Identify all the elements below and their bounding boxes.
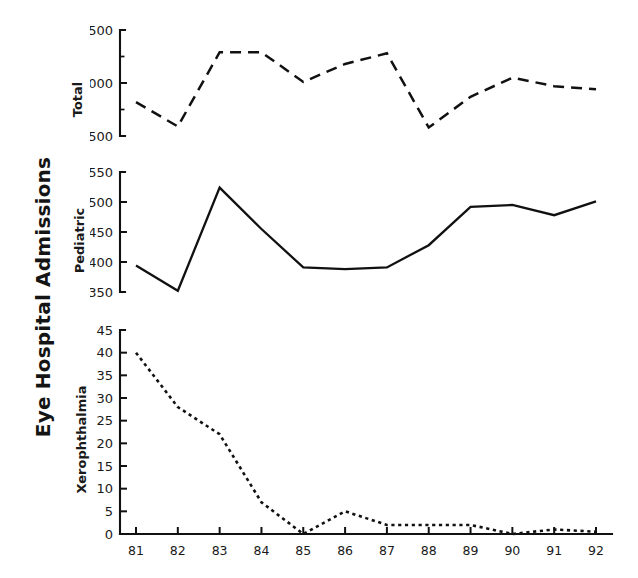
y-tick-label: 20 (96, 436, 113, 451)
y-tick-label: 15 (96, 459, 113, 474)
x-tick-label: 85 (295, 543, 311, 558)
series-line-total (136, 52, 596, 127)
series-line-xerophthalmia (136, 353, 596, 534)
y-axis-title: Eye Hospital Admissions (31, 132, 55, 462)
panel-label-xerophthalmia: Xerophthalmia (74, 357, 89, 522)
x-tick-label: 92 (588, 543, 604, 558)
y-tick-label: 2500 (90, 129, 113, 144)
y-tick-label: 500 (90, 195, 113, 210)
y-tick-label: 550 (90, 165, 113, 180)
y-tick-label: 40 (96, 345, 113, 360)
y-tick-label: 3500 (90, 23, 113, 38)
x-tick-label: 82 (170, 543, 186, 558)
x-tick-label: 86 (337, 543, 353, 558)
x-tick-label: 81 (128, 543, 144, 558)
x-tick-label: 84 (254, 543, 270, 558)
x-tick-label: 88 (421, 543, 437, 558)
y-tick-label: 10 (96, 481, 113, 496)
y-tick-label: 35 (96, 368, 113, 383)
y-tick-label: 30 (96, 391, 113, 406)
y-tick-label: 350 (90, 285, 113, 300)
x-tick-label: 91 (546, 543, 562, 558)
y-tick-label: 25 (96, 413, 113, 428)
chart-figure: Eye Hospital Admissions Total Pediatric … (0, 0, 638, 578)
y-tick-label: 45 (96, 323, 113, 338)
y-tick-label: 5 (105, 504, 113, 519)
y-tick-label: 400 (90, 255, 113, 270)
y-tick-label: 3000 (90, 76, 113, 91)
panel-xerophthalmia: 0510152025303540458182838485868788899091… (90, 322, 638, 574)
panel-pediatric: 350400450500550 (90, 160, 638, 305)
panel-total: 250030003500 (90, 18, 638, 148)
x-tick-label: 87 (379, 543, 395, 558)
y-tick-label: 450 (90, 225, 113, 240)
series-line-pediatric (136, 188, 596, 291)
x-tick-label: 89 (463, 543, 479, 558)
panel-label-pediatric: Pediatric (72, 176, 87, 306)
x-tick-label: 90 (504, 543, 520, 558)
x-tick-label: 83 (212, 543, 228, 558)
y-tick-label: 0 (105, 527, 113, 542)
panel-label-total: Total (70, 45, 85, 155)
